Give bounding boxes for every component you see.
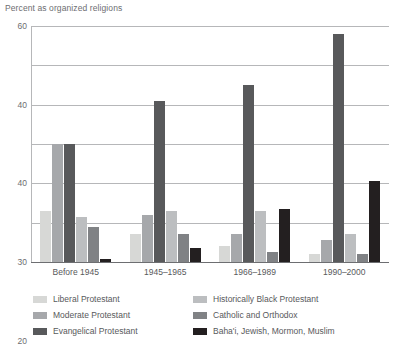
bar [231,234,242,262]
bar [76,217,87,262]
legend-swatch [33,328,47,335]
y-axis-tick-label: 60 [18,21,27,31]
bar [190,248,201,262]
bar [321,240,332,262]
legend-label: Moderate Protestant [53,310,130,320]
y-axis-tick-label: 40 [18,178,27,188]
legend-swatch [193,296,207,303]
bar [142,215,153,262]
legend-item: Historically Black Protestant [193,294,393,304]
x-axis-tick-label: 1990–2000 [323,267,366,277]
bar [219,246,230,262]
legend-item: Liberal Protestant [33,294,193,304]
chart-legend: Liberal ProtestantHistorically Black Pro… [33,291,393,339]
bar-group [219,26,290,262]
legend-swatch [193,328,207,335]
y-axis-tick-label: 30 [18,257,27,267]
bar-group [40,26,111,262]
bar [357,254,368,262]
bar [345,234,356,262]
legend-swatch [33,312,47,319]
bar [369,181,380,262]
bar [166,211,177,262]
legend-swatch [193,312,207,319]
bar [279,209,290,262]
bar-group [130,26,201,262]
bar [64,144,75,262]
legend-item: Baha'i, Jewish, Mormon, Muslim [193,326,393,336]
chart-title: Percent as organized religions [5,3,122,13]
legend-item: Catholic and Orthodox [193,310,393,320]
bar [130,234,141,262]
bar [333,34,344,262]
legend-label: Baha'i, Jewish, Mormon, Muslim [213,326,335,336]
x-axis-line: 0 [31,262,389,263]
legend-label: Historically Black Protestant [213,294,318,304]
plot-area: 6040403020100 [31,26,389,262]
bar [309,254,320,262]
bar [52,144,63,262]
x-axis-tick-label: 1966–1989 [233,267,276,277]
bar [243,85,254,262]
legend-swatch [33,296,47,303]
y-axis-tick-label: 40 [18,100,27,110]
legend-item: Evangelical Protestant [33,326,193,336]
bar [40,211,51,262]
bar-group [309,26,380,262]
legend-label: Liberal Protestant [53,294,120,304]
bar [154,101,165,262]
bar [178,234,189,262]
legend-label: Evangelical Protestant [53,326,138,336]
bar [267,252,278,262]
bar [100,259,111,262]
bar [88,227,99,262]
legend-item: Moderate Protestant [33,310,193,320]
y-axis-tick-label: 20 [18,336,27,346]
legend-label: Catholic and Orthodox [213,310,298,320]
x-axis-tick-label: 1945–1965 [144,267,187,277]
bar [255,211,266,262]
x-axis-tick-label: Before 1945 [53,267,99,277]
